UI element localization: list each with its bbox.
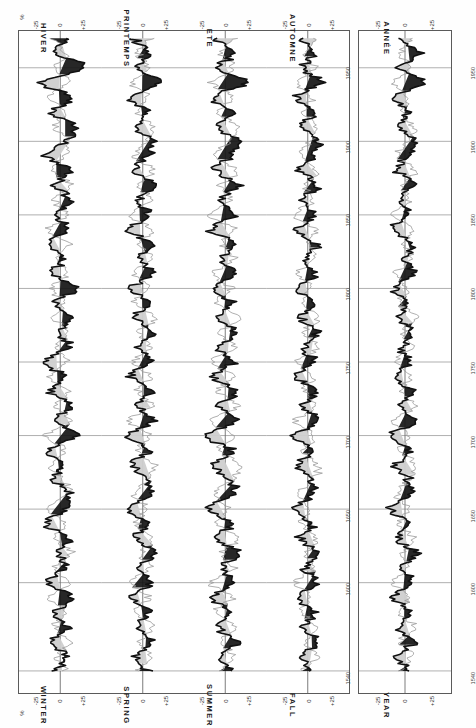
time-axis: 195019001850180017501700165016001540 [450, 30, 476, 694]
value-tick-label: +25 [80, 20, 86, 30]
time-tick-label: 1750 [345, 362, 351, 374]
value-tick-label: +25 [80, 696, 86, 706]
value-tick-label: +25 [246, 20, 252, 30]
value-axis-bottom: +250-25+250-25+250-25+250-25+250-25 [0, 694, 476, 728]
time-tick-label: 1600 [470, 583, 476, 595]
value-tick-label: 0 [57, 23, 63, 26]
value-tick-label: +25 [163, 20, 169, 30]
panel-title-summer-en: SUMMER [204, 684, 213, 727]
time-tick-label: 1600 [345, 583, 351, 595]
value-tick-label: 0 [140, 23, 146, 26]
value-tick-label: +25 [429, 696, 435, 706]
time-tick-label: 1540 [345, 672, 351, 684]
panel-title-annual-fr: ANNÉE [382, 21, 391, 55]
time-tick-label: 1750 [470, 362, 476, 374]
panel-title-spring-fr: PRINTEMPS [121, 9, 130, 67]
time-tick-label: 1800 [345, 288, 351, 300]
panel-title-annual-en: YEAR [382, 692, 391, 719]
panel-title-summer-fr: ETE [204, 29, 213, 48]
time-tick-label: 1540 [470, 672, 476, 684]
annual-plot-area [359, 31, 451, 693]
panel-title-autumn-fr: AUTOMNE [287, 14, 296, 63]
value-tick-label: -25 [375, 21, 381, 30]
value-tick-label: 0 [306, 23, 312, 26]
value-tick-label: +25 [246, 696, 252, 706]
time-tick-label: 1850 [345, 214, 351, 226]
time-tick-label: 1900 [470, 141, 476, 153]
value-tick-label: 0 [140, 699, 146, 702]
time-tick-label: 1800 [470, 288, 476, 300]
annual-panel [358, 30, 452, 694]
seasonal-plot-svg [19, 31, 349, 693]
value-tick-label: 0 [402, 23, 408, 26]
panel-title-autumn-en: FALL [287, 693, 296, 718]
value-axis-top: +250-25+250-25+250-25+250-25+250-25 [0, 0, 476, 30]
panel-title-winter-fr: HIVER [38, 23, 47, 54]
panel-title-winter-en: WINTER [38, 686, 47, 725]
value-tick-label: +25 [163, 696, 169, 706]
value-tick-label: 0 [57, 699, 63, 702]
value-tick-label: -25 [375, 697, 381, 706]
value-tick-label: 0 [402, 699, 408, 702]
value-tick-label: +25 [429, 20, 435, 30]
time-tick-label: 1700 [345, 436, 351, 448]
time-tick-label: 1700 [470, 436, 476, 448]
seasonal-plot-area [19, 31, 349, 693]
panel-title-spring-en: SPRING [121, 686, 130, 724]
annual-plot-svg [359, 31, 451, 693]
figure-root: % % +250-25+250-25+250-25+250-25+250-25 … [0, 0, 476, 728]
value-tick-label: 0 [306, 699, 312, 702]
seasonal-panel-group [18, 30, 350, 694]
time-tick-label: 1950 [470, 67, 476, 79]
time-tick-label: 1900 [345, 141, 351, 153]
seasonal-anomaly-figure: % % +250-25+250-25+250-25+250-25+250-25 … [0, 0, 476, 728]
time-tick-label: 1950 [345, 67, 351, 79]
value-tick-label: 0 [223, 23, 229, 26]
value-tick-label: 0 [223, 699, 229, 702]
time-tick-label: 1650 [470, 510, 476, 522]
value-tick-label: +25 [329, 20, 335, 30]
time-tick-label: 1850 [470, 214, 476, 226]
value-tick-label: +25 [329, 696, 335, 706]
time-tick-label: 1650 [345, 510, 351, 522]
